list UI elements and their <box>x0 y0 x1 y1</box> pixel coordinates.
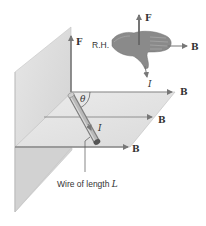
wire-caption-variable: L <box>111 179 118 189</box>
wire-caption: Wire of length L <box>57 179 118 189</box>
force-label: F <box>76 37 83 47</box>
magnetic-force-diagram: F B B B θ I Wire of length L R.H. F B I <box>0 0 206 226</box>
current-label: I <box>97 123 102 133</box>
hand-current-label: I <box>147 79 152 89</box>
field-label-bottom: B <box>132 144 140 154</box>
angle-label: θ <box>80 94 86 104</box>
field-label-top: B <box>180 87 188 97</box>
wire-caption-text: Wire of length <box>57 179 112 189</box>
hand-force-label: F <box>145 13 152 23</box>
field-label-middle: B <box>158 115 166 125</box>
hand-field-label: B <box>191 42 199 52</box>
right-hand-icon <box>112 31 171 69</box>
right-hand-label: R.H. <box>92 40 109 50</box>
